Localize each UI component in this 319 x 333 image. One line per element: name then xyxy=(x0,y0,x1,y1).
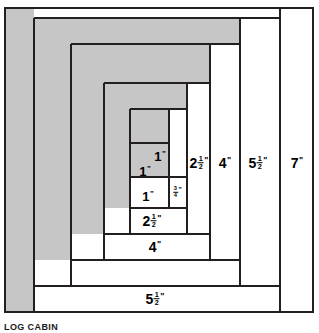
piece-log-12-bottom xyxy=(71,234,210,260)
piece-log-15-right xyxy=(240,18,280,286)
piece-log-18-right xyxy=(280,8,313,312)
piece-log-13-left xyxy=(34,44,71,260)
piece-log-14-top xyxy=(34,18,274,44)
piece-log-3-right xyxy=(169,109,187,208)
piece-center-square xyxy=(130,143,169,177)
piece-log-8-bottom xyxy=(104,208,187,234)
piece-log-2-bottom xyxy=(130,177,169,208)
piece-log-7-right xyxy=(187,83,210,208)
piece-log-11-right xyxy=(210,44,240,260)
piece-log-16-bottom xyxy=(34,286,240,312)
quilt-block-diagram xyxy=(0,0,319,333)
piece-log-17-left xyxy=(5,8,34,312)
piece-log-5-left xyxy=(104,109,130,208)
log-cabin-block-figure: 1" 1" 1" 3 4 " 2 1 2 " 2 1 2 xyxy=(0,0,319,333)
piece-log-4-top xyxy=(130,109,169,143)
piece-log-9-left xyxy=(71,83,104,234)
figure-caption: LOG CABIN xyxy=(4,322,58,332)
